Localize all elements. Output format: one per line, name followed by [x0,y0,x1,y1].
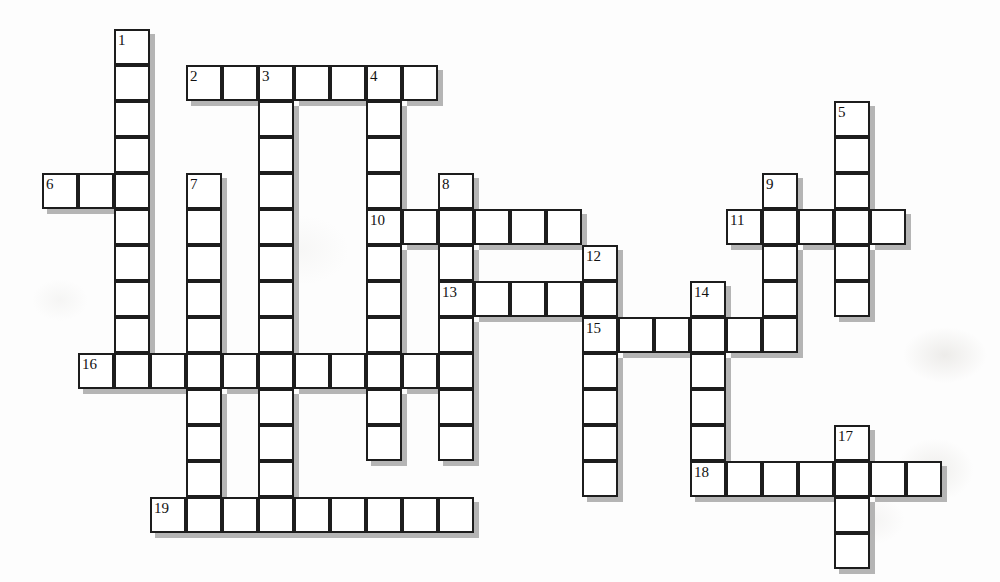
crossword-cell[interactable] [258,461,294,497]
crossword-cell[interactable] [690,425,726,461]
crossword-cell[interactable] [510,281,546,317]
crossword-cell[interactable] [402,353,438,389]
crossword-cell[interactable] [438,353,474,389]
crossword-cell[interactable] [366,281,402,317]
crossword-cell[interactable] [258,101,294,137]
crossword-cell[interactable] [834,209,870,245]
crossword-cell[interactable] [690,353,726,389]
crossword-cell[interactable] [834,101,870,137]
crossword-cell[interactable] [258,245,294,281]
crossword-cell[interactable] [42,173,78,209]
crossword-cell[interactable] [78,353,114,389]
crossword-cell[interactable] [186,281,222,317]
crossword-cell[interactable] [474,281,510,317]
crossword-cell[interactable] [114,281,150,317]
crossword-cell[interactable] [114,173,150,209]
crossword-cell[interactable] [222,353,258,389]
crossword-cell[interactable] [186,317,222,353]
crossword-cell[interactable] [438,245,474,281]
crossword-cell[interactable] [330,497,366,533]
crossword-cell[interactable] [78,173,114,209]
crossword-cell[interactable] [366,353,402,389]
crossword-cell[interactable] [582,425,618,461]
crossword-cell[interactable] [762,461,798,497]
crossword-cell[interactable] [582,389,618,425]
crossword-cell[interactable] [798,461,834,497]
crossword-cell[interactable] [402,65,438,101]
crossword-cell[interactable] [762,317,798,353]
crossword-grid[interactable]: 12345678910111213141516171819 [0,0,1000,582]
crossword-cell[interactable] [186,65,222,101]
crossword-cell[interactable] [114,65,150,101]
crossword-cell[interactable] [726,209,762,245]
crossword-cell[interactable] [438,425,474,461]
crossword-cell[interactable] [222,497,258,533]
crossword-cell[interactable] [258,317,294,353]
crossword-cell[interactable] [366,317,402,353]
crossword-cell[interactable] [834,245,870,281]
crossword-cell[interactable] [186,425,222,461]
crossword-cell[interactable] [438,389,474,425]
crossword-cell[interactable] [294,497,330,533]
crossword-cell[interactable] [366,425,402,461]
crossword-cell[interactable] [114,137,150,173]
crossword-cell[interactable] [834,425,870,461]
crossword-cell[interactable] [726,317,762,353]
crossword-cell[interactable] [906,461,942,497]
crossword-cell[interactable] [186,173,222,209]
crossword-cell[interactable] [582,461,618,497]
crossword-cell[interactable] [186,245,222,281]
crossword-cell[interactable] [726,461,762,497]
crossword-cell[interactable] [258,281,294,317]
crossword-cell[interactable] [114,353,150,389]
crossword-cell[interactable] [870,209,906,245]
crossword-cell[interactable] [294,353,330,389]
crossword-cell[interactable] [834,461,870,497]
crossword-cell[interactable] [582,353,618,389]
crossword-cell[interactable] [258,173,294,209]
crossword-cell[interactable] [798,209,834,245]
crossword-cell[interactable] [690,461,726,497]
crossword-cell[interactable] [294,65,330,101]
crossword-cell[interactable] [114,29,150,65]
crossword-cell[interactable] [258,389,294,425]
crossword-cell[interactable] [258,353,294,389]
crossword-cell[interactable] [546,281,582,317]
crossword-cell[interactable] [834,533,870,569]
crossword-cell[interactable] [582,317,618,353]
crossword-cell[interactable] [582,281,618,317]
crossword-cell[interactable] [582,245,618,281]
crossword-cell[interactable] [258,137,294,173]
crossword-cell[interactable] [366,245,402,281]
crossword-cell[interactable] [366,173,402,209]
crossword-cell[interactable] [834,137,870,173]
crossword-cell[interactable] [690,389,726,425]
crossword-cell[interactable] [690,281,726,317]
crossword-cell[interactable] [366,497,402,533]
crossword-cell[interactable] [186,389,222,425]
crossword-cell[interactable] [762,245,798,281]
crossword-cell[interactable] [186,497,222,533]
crossword-cell[interactable] [150,353,186,389]
crossword-cell[interactable] [222,65,258,101]
crossword-cell[interactable] [762,281,798,317]
crossword-cell[interactable] [366,389,402,425]
crossword-cell[interactable] [366,101,402,137]
crossword-cell[interactable] [438,173,474,209]
crossword-cell[interactable] [546,209,582,245]
crossword-cell[interactable] [654,317,690,353]
crossword-cell[interactable] [402,209,438,245]
crossword-cell[interactable] [114,101,150,137]
crossword-cell[interactable] [366,137,402,173]
crossword-cell[interactable] [258,425,294,461]
crossword-cell[interactable] [438,209,474,245]
crossword-cell[interactable] [438,497,474,533]
crossword-cell[interactable] [870,461,906,497]
crossword-cell[interactable] [366,209,402,245]
crossword-cell[interactable] [330,65,366,101]
crossword-cell[interactable] [186,461,222,497]
crossword-cell[interactable] [114,245,150,281]
crossword-cell[interactable] [114,317,150,353]
crossword-cell[interactable] [690,317,726,353]
crossword-cell[interactable] [330,353,366,389]
